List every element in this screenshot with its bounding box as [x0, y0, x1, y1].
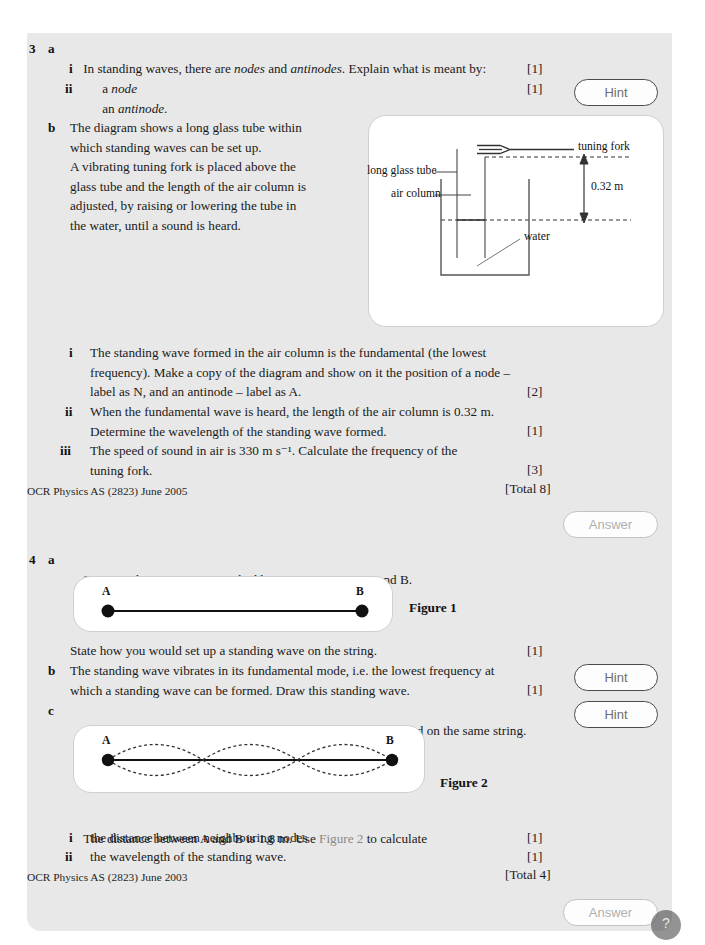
- q3b-subpart-i-text: The standing wave formed in the air colu…: [90, 343, 550, 402]
- answer-button-q3[interactable]: Answer: [563, 511, 658, 538]
- question-3b-body: The diagram shows a long glass tube with…: [70, 118, 370, 235]
- question-3a-letter: a: [48, 39, 55, 59]
- point-b-dot: [356, 605, 369, 618]
- dimension-label: 0.32 m: [591, 180, 623, 193]
- q3a-stem-mid: and: [265, 61, 291, 76]
- q3b-subpart-iii-roman: iii: [60, 441, 71, 461]
- q3b-subpart-ii-text: When the fundamental wave is heard, the …: [90, 402, 550, 441]
- figure-1-caption: Figure 1: [409, 600, 457, 616]
- q3aii-post: .: [164, 101, 167, 116]
- figure-1-point-b-label: B: [356, 585, 364, 598]
- figure-2-point-a-label: A: [102, 734, 110, 747]
- q3aii-pre: an: [102, 101, 118, 116]
- point-a-dot: [102, 754, 114, 766]
- figure-1-string-diagram: [74, 577, 394, 633]
- question-4-total: [Total 4]: [505, 867, 551, 883]
- q3b-subpart-i-roman: i: [69, 343, 73, 363]
- hint-button-q4c[interactable]: Hint: [574, 701, 658, 728]
- question-3-number: 3: [29, 39, 36, 59]
- q3a-stem-post: . Explain what is meant by:: [342, 61, 486, 76]
- question-3b-letter: b: [48, 118, 55, 138]
- question-3-total: [Total 8]: [505, 481, 551, 497]
- figure-1-card: A B: [73, 576, 393, 632]
- q4a-followup-text: State how you would set up a standing wa…: [70, 641, 530, 661]
- q3b-subpart-i-marks: [2]: [527, 382, 542, 402]
- q4c-subpart-ii-roman: ii: [65, 847, 72, 867]
- q4c-subpart-i-marks: [1]: [527, 828, 542, 848]
- page-content-panel: 3 a In standing waves, there are nodes a…: [27, 33, 672, 931]
- help-badge-icon[interactable]: ?: [651, 910, 681, 940]
- q4c-subpart-i-text: the distance between neighbouring nodes: [90, 828, 530, 848]
- dimension-arrow-0-32m: [580, 154, 588, 223]
- q3a-term-nodes: nodes: [234, 61, 265, 76]
- tuning-fork-label: tuning fork: [578, 140, 630, 153]
- question-4-source: OCR Physics AS (2823) June 2003: [27, 869, 187, 885]
- q3a-subpart-i-marks: [1]: [527, 59, 542, 79]
- water-leader-line: [477, 239, 520, 266]
- question-3-source: OCR Physics AS (2823) June 2005: [27, 483, 187, 499]
- hint-button-q3a[interactable]: Hint: [574, 79, 658, 106]
- point-a-dot: [102, 605, 115, 618]
- q3a-subpart-ii-marks: [1]: [527, 79, 542, 99]
- figure-1-point-a-label: A: [102, 585, 110, 598]
- question-4a-letter: a: [48, 550, 55, 570]
- q3b-subpart-ii-marks: [1]: [527, 421, 542, 441]
- figure-2-standing-wave-diagram: [74, 726, 426, 794]
- answer-button-q4[interactable]: Answer: [563, 899, 658, 926]
- q4c-subpart-ii-marks: [1]: [527, 847, 542, 867]
- q3b-subpart-iii-text: The speed of sound in air is 330 m s⁻¹. …: [90, 441, 550, 480]
- figure-2-caption: Figure 2: [440, 775, 488, 791]
- point-b-dot: [386, 754, 398, 766]
- figure-2-point-b-label: B: [386, 734, 394, 747]
- question-4b-letter: b: [48, 661, 55, 681]
- question-4b-marks: [1]: [527, 680, 542, 700]
- water-label: water: [524, 230, 550, 243]
- figure-2-card: A B: [73, 725, 425, 793]
- q3a-subpart-i-roman: i: [69, 59, 73, 79]
- long-glass-tube-label: long glass tube: [367, 164, 437, 177]
- air-column-label: air column: [391, 187, 441, 200]
- tuning-fork-icon: [477, 146, 574, 154]
- q3b-subpart-iii-marks: [3]: [527, 460, 542, 480]
- question-4-number: 4: [29, 550, 36, 570]
- hint-button-q4b[interactable]: Hint: [574, 664, 658, 691]
- q3a-term-antinodes: antinodes: [290, 61, 341, 76]
- question-4b-text: The standing wave vibrates in its fundam…: [70, 661, 540, 700]
- q4c-subpart-i-roman: i: [69, 828, 73, 848]
- question-4c-letter: c: [48, 701, 54, 721]
- figure-glass-tube-card: tuning fork long glass tube air column w…: [368, 115, 664, 327]
- q3aii-term: antinode: [118, 101, 164, 116]
- q4c-subpart-ii-text: the wavelength of the standing wave.: [90, 847, 530, 867]
- q4a-followup-marks: [1]: [527, 641, 542, 661]
- q3b-subpart-ii-roman: ii: [65, 402, 72, 422]
- q3a-subpart-ii-roman: ii: [65, 79, 72, 99]
